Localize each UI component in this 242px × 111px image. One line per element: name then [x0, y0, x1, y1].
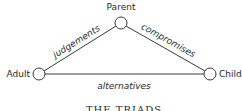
node-adult-label: Adult — [7, 69, 31, 79]
node-parent-label: Parent — [107, 2, 136, 12]
diagram-caption: THE TRIADS — [86, 104, 162, 111]
node-child-circle — [204, 68, 216, 80]
node-parent-circle — [115, 17, 127, 29]
edge-label-judgements: judgements — [49, 23, 102, 61]
edge-label-compromises: compromises — [140, 21, 198, 59]
edge-label-alternatives: alternatives — [97, 81, 151, 91]
node-child-label: Child — [219, 69, 242, 79]
triad-diagram: Parent Adult Child judgements compromise… — [0, 0, 242, 111]
node-adult-circle — [33, 68, 45, 80]
